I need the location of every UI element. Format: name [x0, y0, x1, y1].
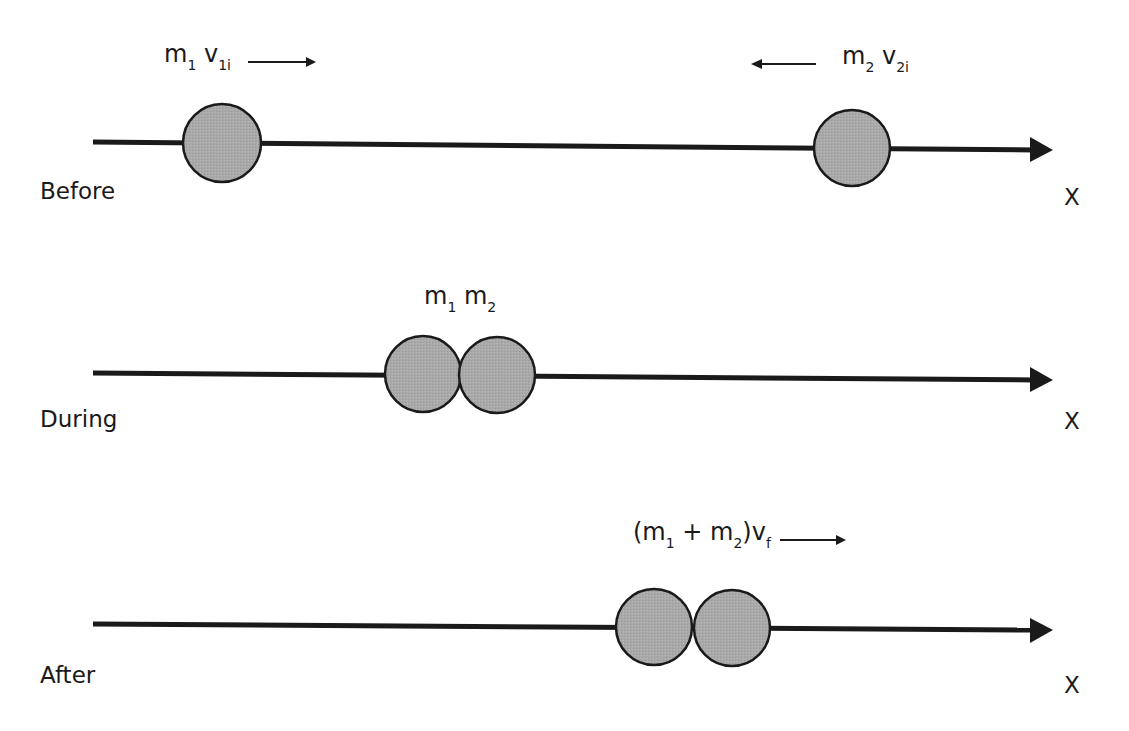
- v1-arrowhead-icon: [306, 57, 316, 67]
- stage-label-after: After: [40, 662, 95, 688]
- subscript: 2: [733, 535, 742, 551]
- mass-symbol: m: [164, 40, 187, 68]
- mass-1-ball: [385, 336, 461, 412]
- axis-label-x: X: [1064, 672, 1080, 698]
- after-panel: [93, 535, 1053, 666]
- subscript: 2: [487, 299, 496, 315]
- axis-label-x: X: [1064, 184, 1080, 210]
- during-panel: [93, 336, 1053, 413]
- x-axis-line: [93, 373, 1035, 380]
- mass-2-ball: [814, 110, 890, 186]
- subscript: 2: [865, 59, 874, 75]
- subscript: 2i: [896, 59, 909, 75]
- subscript: 1: [666, 535, 675, 551]
- x-axis-arrowhead-icon: [1030, 367, 1053, 392]
- mass-1-ball: [616, 589, 692, 665]
- mass-symbol: m: [424, 282, 447, 310]
- mass-symbol: m: [464, 282, 487, 310]
- x-axis-arrowhead-icon: [1030, 137, 1053, 162]
- before-panel: [93, 57, 1053, 186]
- label-m1-v1i: m1 v1i: [164, 40, 231, 68]
- stage-label-during: During: [40, 406, 117, 432]
- label-m2-v2i: m2 v2i: [842, 42, 909, 70]
- subscript: f: [766, 535, 771, 551]
- velocity-symbol: )v: [742, 518, 766, 546]
- velocity-symbol: v: [882, 42, 896, 70]
- mass-symbol: + m: [675, 518, 734, 546]
- label-combined-momentum: (m1 + m2)vf: [633, 518, 771, 546]
- mass-2-ball: [694, 590, 770, 666]
- v2-arrowhead-icon: [751, 59, 762, 69]
- label-m1-m2: m1 m2: [424, 282, 496, 310]
- mass-1-ball: [183, 104, 261, 182]
- mass-symbol: (m: [633, 518, 666, 546]
- collision-diagram: [0, 0, 1129, 731]
- stage-label-before: Before: [40, 178, 115, 204]
- vf-arrowhead-icon: [836, 535, 846, 545]
- mass-2-ball: [459, 337, 535, 413]
- mass-symbol: m: [842, 42, 865, 70]
- subscript: 1: [447, 299, 456, 315]
- x-axis-line: [93, 624, 1035, 630]
- x-axis-arrowhead-icon: [1030, 618, 1053, 643]
- subscript: 1: [187, 57, 196, 73]
- subscript: 1i: [218, 57, 231, 73]
- velocity-symbol: v: [204, 40, 218, 68]
- axis-label-x: X: [1064, 408, 1080, 434]
